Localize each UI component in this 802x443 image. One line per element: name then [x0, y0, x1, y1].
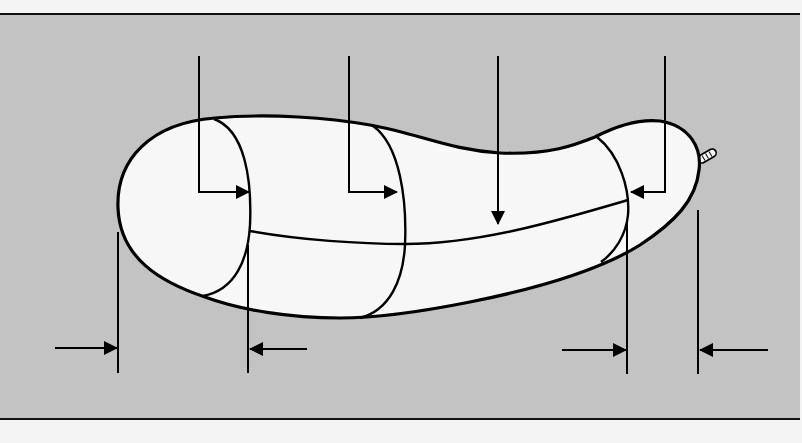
balloon-diagram: [0, 0, 802, 443]
